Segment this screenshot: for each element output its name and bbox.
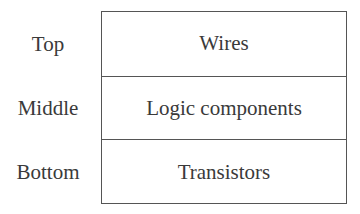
layer-middle-text: Logic components: [146, 96, 302, 121]
layer-stack: Wires Logic components Transistors: [101, 11, 347, 204]
layer-bottom: Transistors: [102, 139, 346, 204]
layer-middle: Logic components: [102, 76, 346, 140]
level-label-middle: Middle: [0, 96, 96, 121]
layer-bottom-text: Transistors: [178, 160, 271, 185]
level-label-bottom: Bottom: [0, 160, 96, 185]
layer-top-text: Wires: [199, 31, 248, 56]
level-label-top: Top: [0, 32, 96, 57]
layer-top: Wires: [102, 12, 346, 75]
